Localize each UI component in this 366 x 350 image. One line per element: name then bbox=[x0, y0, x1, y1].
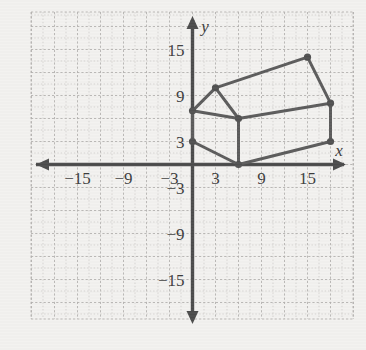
vertex-back-eave bbox=[327, 100, 334, 107]
coordinate-plane-figure: −15−9−339151593−3−9−15 x y bbox=[0, 0, 366, 350]
x-tick-label-15: 15 bbox=[299, 169, 316, 188]
x-tick-label-9: 9 bbox=[257, 169, 266, 188]
x-axis-label: x bbox=[334, 141, 343, 160]
graph-canvas: −15−9−339151593−3−9−15 x y bbox=[0, 0, 366, 350]
vertex-roof-peak-front bbox=[212, 84, 219, 91]
x-tick-label--15: −15 bbox=[64, 169, 91, 188]
y-tick-label--3: −3 bbox=[166, 179, 184, 198]
vertex-front-bottom bbox=[235, 161, 242, 168]
vertex-front-eave bbox=[235, 115, 242, 122]
vertex-back-bottom bbox=[327, 138, 334, 145]
y-tick-label-9: 9 bbox=[176, 87, 185, 106]
vertex-front-left-lower bbox=[189, 138, 196, 145]
y-tick-label--9: −9 bbox=[166, 225, 184, 244]
x-tick-label-3: 3 bbox=[211, 169, 220, 188]
y-tick-label-3: 3 bbox=[176, 133, 185, 152]
y-tick-label-15: 15 bbox=[168, 41, 185, 60]
y-tick-label--15: −15 bbox=[158, 271, 185, 290]
y-axis-label: y bbox=[199, 17, 209, 36]
x-tick-label--9: −9 bbox=[114, 169, 132, 188]
vertex-front-left-upper bbox=[189, 107, 196, 114]
vertex-roof-peak-back bbox=[304, 54, 311, 61]
